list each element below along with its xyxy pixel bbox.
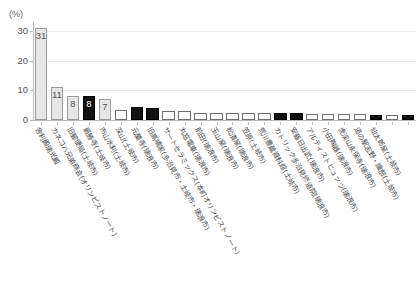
y-tick-label-20: 20 bbox=[0, 55, 28, 66]
bar-16[interactable] bbox=[274, 113, 286, 120]
x-tick-16 bbox=[280, 122, 281, 125]
bar-6[interactable] bbox=[115, 110, 127, 120]
bar-13[interactable] bbox=[226, 113, 238, 120]
bar-5[interactable]: 7 bbox=[99, 99, 111, 120]
bar-value-label-4: 8 bbox=[84, 99, 94, 109]
x-tick-19 bbox=[328, 122, 329, 125]
bar-23[interactable] bbox=[386, 115, 398, 120]
bar-7[interactable] bbox=[131, 107, 143, 120]
bar-14[interactable] bbox=[242, 113, 254, 120]
bar-15[interactable] bbox=[258, 113, 270, 120]
bar-12[interactable] bbox=[210, 113, 222, 120]
bar-value-label-2: 11 bbox=[52, 90, 62, 100]
x-tick-18 bbox=[312, 122, 313, 125]
gridline-10 bbox=[33, 90, 416, 91]
cropped-header-strip bbox=[8, 0, 88, 6]
bar-2[interactable]: 11 bbox=[51, 87, 63, 120]
bar-8[interactable] bbox=[146, 108, 158, 120]
x-axis-labels: 舎利殿瑞光殿カネコハ兄弟商会(オリンピストノート)旧郵便局(土岐市)最勝寺(土岐… bbox=[33, 122, 416, 287]
bar-17[interactable] bbox=[290, 113, 302, 120]
x-tick-24 bbox=[408, 122, 409, 125]
bar-4[interactable]: 8 bbox=[83, 96, 95, 120]
bar-19[interactable] bbox=[322, 114, 334, 120]
y-tick-label-10: 10 bbox=[0, 84, 28, 95]
bar-24[interactable] bbox=[402, 115, 414, 120]
bar-value-label-5: 7 bbox=[100, 102, 110, 112]
x-tick-4 bbox=[89, 122, 90, 125]
bar-3[interactable]: 8 bbox=[67, 96, 79, 120]
bar-11[interactable] bbox=[194, 113, 206, 120]
x-axis-line bbox=[33, 120, 416, 121]
y-axis-unit-label: (%) bbox=[9, 9, 23, 19]
x-tick-3 bbox=[73, 122, 74, 125]
gridline-20 bbox=[33, 61, 416, 62]
bar-18[interactable] bbox=[306, 114, 318, 120]
y-tick-label-0: 0 bbox=[0, 114, 28, 125]
bar-value-label-1: 31 bbox=[36, 31, 46, 41]
bar-9[interactable] bbox=[162, 111, 174, 120]
x-tick-21 bbox=[360, 122, 361, 125]
bar-22[interactable] bbox=[370, 115, 382, 120]
y-tick-label-30: 30 bbox=[0, 25, 28, 36]
x-tick-5 bbox=[105, 122, 106, 125]
gridline-30 bbox=[33, 31, 416, 32]
bar-21[interactable] bbox=[354, 114, 366, 120]
x-tick-23 bbox=[392, 122, 393, 125]
bar-20[interactable] bbox=[338, 114, 350, 120]
x-tick-2 bbox=[57, 122, 58, 125]
bar-10[interactable] bbox=[178, 111, 190, 120]
x-tick-15 bbox=[264, 122, 265, 125]
x-tick-1 bbox=[41, 122, 42, 125]
x-tick-14 bbox=[248, 122, 249, 125]
x-tick-6 bbox=[121, 122, 122, 125]
bar-value-label-3: 8 bbox=[68, 99, 78, 109]
bar-chart: (%) 0102030 3111887 舎利殿瑞光殿カネコハ兄弟商会(オリンピス… bbox=[0, 0, 418, 287]
bar-1[interactable]: 31 bbox=[35, 28, 47, 120]
plot-area: 3111887 bbox=[33, 22, 416, 120]
x-tick-13 bbox=[232, 122, 233, 125]
x-tick-20 bbox=[344, 122, 345, 125]
x-tick-22 bbox=[376, 122, 377, 125]
y-tick-mark-0 bbox=[30, 120, 33, 121]
x-tick-17 bbox=[296, 122, 297, 125]
